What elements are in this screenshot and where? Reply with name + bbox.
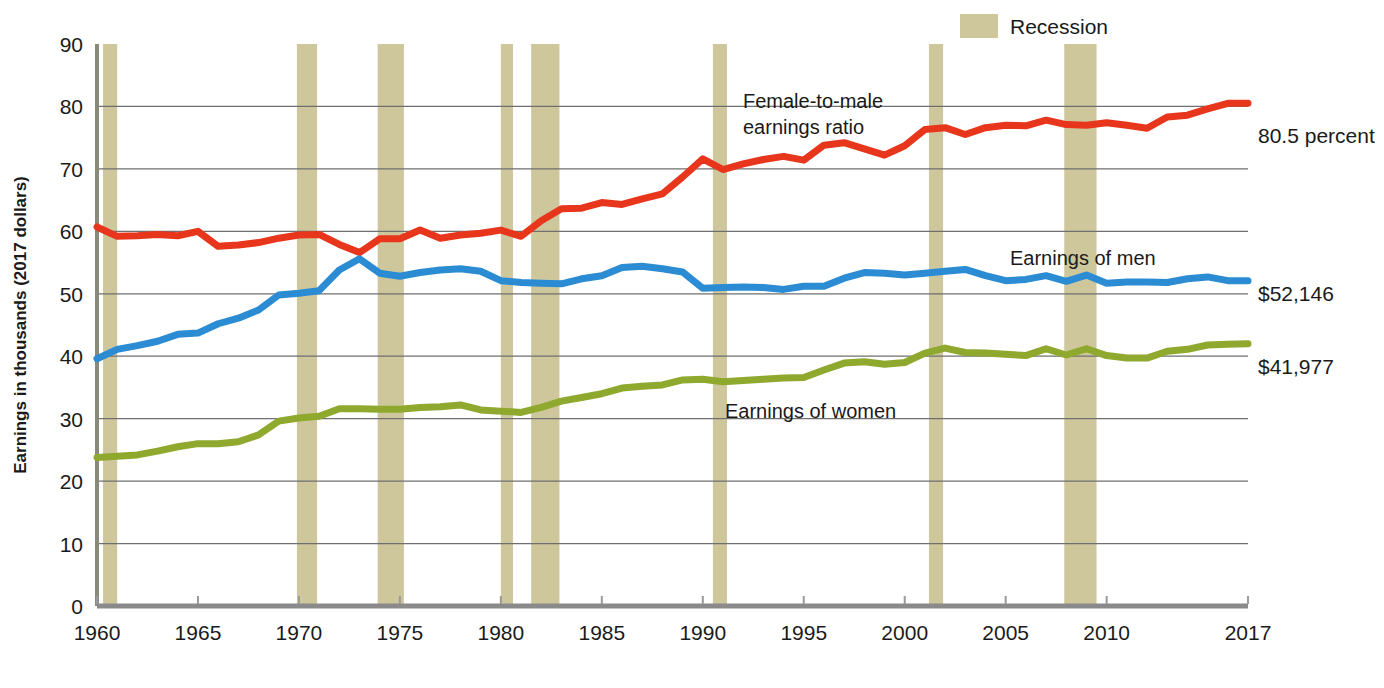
x-tick-label: 1960 <box>74 621 121 644</box>
x-tick-label: 1965 <box>175 621 222 644</box>
y-tick-label: 0 <box>71 595 83 618</box>
end-label-ratio: 80.5 percent <box>1258 124 1375 147</box>
x-tick-label: 1970 <box>276 621 323 644</box>
x-tick-label: 1975 <box>377 621 424 644</box>
x-tick-label: 1995 <box>780 621 827 644</box>
legend-swatch-recession <box>960 14 998 38</box>
y-tick-label: 20 <box>60 470 83 493</box>
end-label-women: $41,977 <box>1258 355 1334 378</box>
y-tick-label: 60 <box>60 220 83 243</box>
recession-band <box>501 44 513 606</box>
y-tick-label: 50 <box>60 283 83 306</box>
x-tick-label: 1985 <box>578 621 625 644</box>
x-tick-label: 2017 <box>1225 621 1272 644</box>
x-tick-label: 2005 <box>982 621 1029 644</box>
recession-band <box>531 44 559 606</box>
y-tick-label: 10 <box>60 533 83 556</box>
y-axis-title: Earnings in thousands (2017 dollars) <box>11 176 30 474</box>
recession-band <box>713 44 727 606</box>
y-tick-label: 80 <box>60 95 83 118</box>
annotation-men: Earnings of men <box>1010 247 1156 269</box>
y-tick-label: 90 <box>60 33 83 56</box>
earnings-line-chart: 0102030405060708090196019651970197519801… <box>0 0 1384 688</box>
x-tick-label: 2010 <box>1083 621 1130 644</box>
legend-label-recession: Recession <box>1010 15 1108 38</box>
x-tick-label: 2000 <box>881 621 928 644</box>
chart-figure: 0102030405060708090196019651970197519801… <box>0 0 1384 688</box>
end-label-men: $52,146 <box>1258 282 1334 305</box>
recession-band <box>297 44 317 606</box>
annotation-women: Earnings of women <box>725 400 896 422</box>
annotation-ratio-line1: Female-to-male <box>743 90 883 112</box>
recession-band <box>103 44 117 606</box>
x-tick-label: 1990 <box>679 621 726 644</box>
y-tick-label: 40 <box>60 345 83 368</box>
y-tick-label: 30 <box>60 408 83 431</box>
recession-band <box>378 44 404 606</box>
annotation-ratio-line2: earnings ratio <box>743 116 864 138</box>
y-tick-label: 70 <box>60 158 83 181</box>
x-tick-label: 1980 <box>478 621 525 644</box>
